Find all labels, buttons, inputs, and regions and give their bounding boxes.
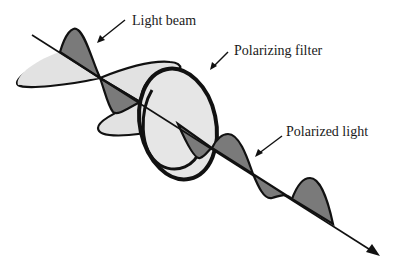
light-beam-pointer: [100, 20, 125, 40]
axis-arrowhead: [366, 244, 380, 256]
polarized-light-label: Polarized light: [286, 124, 368, 139]
polarizing-filter-label: Polarizing filter: [234, 43, 323, 58]
beam-axis: [32, 35, 380, 256]
polarized-wave: [212, 134, 333, 224]
polarized-light-pointer-head: [255, 149, 263, 157]
axis-line: [32, 35, 372, 251]
polarized-lobe-3: [292, 178, 333, 224]
light-beam-label: Light beam: [132, 13, 196, 28]
polarized-light-pointer: [258, 136, 282, 154]
polarized-lobe-2: [253, 174, 292, 199]
polarization-diagram: Light beam Polarizing filter Polarized l…: [0, 0, 394, 268]
